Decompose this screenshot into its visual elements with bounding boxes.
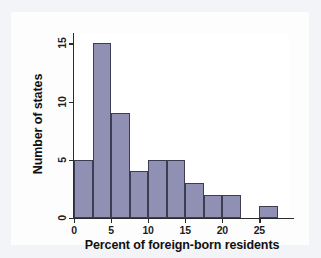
chart-card: 0510152025 051015 Percent of foreign-bor… (11, 12, 309, 245)
x-axis-tick-mark (111, 219, 112, 223)
histogram-bar (167, 160, 186, 218)
x-axis-tick-mark (148, 219, 149, 223)
x-axis-title: Percent of foreign-born residents (57, 238, 307, 252)
histogram-bar (185, 183, 204, 218)
y-axis-tick-mark (69, 218, 73, 219)
x-axis-tick-mark (222, 219, 223, 223)
x-axis-tick-label: 15 (180, 224, 191, 236)
x-axis-tick-label: 5 (108, 224, 114, 236)
y-axis-tick-label: 5 (56, 153, 68, 167)
x-axis-tick-mark (185, 219, 186, 223)
x-axis-tick-label: 0 (71, 224, 77, 236)
histogram-bar (74, 160, 93, 218)
y-axis-tick-label: 0 (56, 211, 68, 225)
x-axis-tick-label: 10 (142, 224, 153, 236)
y-axis-tick-label: 10 (56, 95, 68, 109)
y-axis-tick-label: 15 (56, 36, 68, 50)
histogram-bar (222, 195, 241, 218)
histogram-bar (204, 195, 223, 218)
x-axis-tick-mark (259, 219, 260, 223)
x-axis-tick-label: 25 (254, 224, 265, 236)
histogram-bar (130, 171, 149, 218)
x-axis-tick-mark (74, 219, 75, 223)
histogram-bar (111, 113, 130, 218)
y-axis-tick-mark (69, 43, 73, 44)
x-axis-tick-label: 20 (217, 224, 228, 236)
y-axis-tick-mark (69, 102, 73, 103)
histogram-figure: 0510152025 051015 Percent of foreign-bor… (0, 0, 321, 258)
histogram-bar (148, 160, 167, 218)
y-axis-title: Number of states (31, 64, 45, 184)
histogram-bar (93, 43, 112, 218)
histogram-bar (259, 206, 278, 218)
y-axis-tick-mark (69, 160, 73, 161)
x-axis-line (73, 218, 294, 219)
